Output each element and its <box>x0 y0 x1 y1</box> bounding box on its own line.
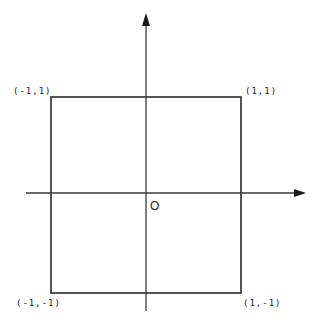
coordinate-diagram <box>0 0 316 325</box>
x-axis-arrow-icon <box>294 189 306 197</box>
vertex-label-bottom-right: (1,-1) <box>243 298 282 308</box>
vertex-label-top-right: (1,1) <box>245 86 277 96</box>
origin-label: O <box>150 199 159 213</box>
y-axis-arrow-icon <box>142 13 150 26</box>
vertex-label-top-left: (-1,1) <box>13 86 52 96</box>
vertex-label-bottom-left: (-1,-1) <box>16 298 61 308</box>
